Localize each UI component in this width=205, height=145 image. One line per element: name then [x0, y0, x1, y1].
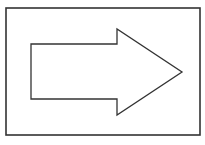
diagram-canvas	[0, 0, 205, 145]
